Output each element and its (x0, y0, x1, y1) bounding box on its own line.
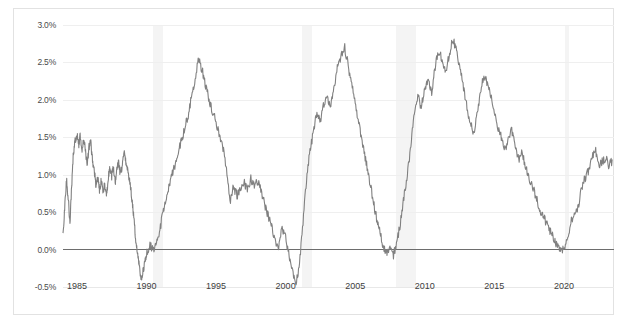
y-axis-tick-label: 3.0% (14, 20, 56, 30)
chart-frame: 3.0%2.5%2.0%1.5%1.0%0.5%0.0%-0.5% 198519… (13, 8, 614, 315)
y-axis-tick-label: 2.0% (14, 95, 56, 105)
y-axis-tick-label: 1.0% (14, 170, 56, 180)
y-axis-tick-label: -0.5% (14, 282, 56, 292)
series-path (63, 39, 613, 285)
x-axis-tick-label: 1990 (136, 281, 156, 291)
x-axis-tick-label: 1985 (67, 281, 87, 291)
y-axis-tick-label: 2.5% (14, 57, 56, 67)
y-axis-tick-label: 1.5% (14, 132, 56, 142)
x-axis-tick-label: 2015 (484, 281, 504, 291)
y-axis-tick-label: 0.0% (14, 245, 56, 255)
chart-root: 3.0%2.5%2.0%1.5%1.0%0.5%0.0%-0.5% 198519… (0, 0, 627, 324)
x-axis-tick-label: 2000 (276, 281, 296, 291)
y-axis-tick-label: 0.5% (14, 207, 56, 217)
x-axis-tick-label: 2010 (415, 281, 435, 291)
x-axis-tick-label: 2020 (554, 281, 574, 291)
plot-area (63, 25, 614, 287)
series-line-spread (63, 25, 614, 287)
x-axis-tick-label: 2005 (345, 281, 365, 291)
x-axis-tick-label: 1995 (206, 281, 226, 291)
